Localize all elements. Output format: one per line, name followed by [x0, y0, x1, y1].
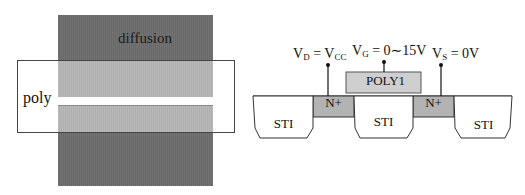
sti-right-label: STI — [456, 117, 511, 133]
transistor-cross-section — [250, 40, 525, 170]
sti-left-label: STI — [256, 116, 311, 132]
gate-voltage-label: VG = 0∼15V — [352, 42, 426, 59]
diffusion-label: diffusion — [118, 30, 172, 47]
source-terminal-dot — [439, 63, 443, 67]
poly1-label: POLY1 — [349, 73, 422, 89]
n-plus-drain-label: N+ — [313, 95, 354, 111]
drain-terminal-dot — [326, 63, 330, 67]
sti-middle-label: STI — [356, 114, 411, 130]
gate-terminal-dot — [382, 60, 386, 64]
drain-voltage-label: VD = VCC — [293, 46, 346, 62]
source-voltage-label: VS = 0V — [432, 46, 479, 62]
n-plus-source-label: N+ — [413, 95, 454, 111]
poly-label: poly — [23, 89, 51, 107]
